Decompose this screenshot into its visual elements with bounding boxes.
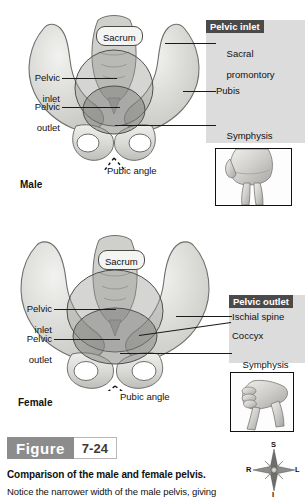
female-panel-item-coccyx: Coccyx [232, 331, 263, 342]
female-leader-symphysis-pubis [120, 353, 232, 354]
female-label-pubic-angle: Pubic angle [120, 392, 170, 403]
female-leader-pelvic-outlet [54, 339, 120, 340]
male-panel-item-sacral-promontory: Sacral promontory [216, 38, 275, 91]
compass-right: R [246, 465, 251, 474]
male-symphysis-line1: Symphysis [227, 130, 273, 141]
sacral-promontory-line1: Sacral [227, 48, 254, 59]
female-sacrum-label: Sacrum [98, 250, 145, 270]
male-leader-symphysis-pubis [115, 125, 216, 126]
figure-word: Figure [7, 437, 74, 459]
male-label-pubic-angle: Pubic angle [107, 166, 157, 177]
female-panel-item-ischial-spine: Ischial spine [232, 312, 284, 323]
figure-tag: Figure 7-24 [7, 437, 117, 459]
male-panel-item-pubis: Pubis [216, 86, 240, 97]
female-panel-header: Pelvic outlet [229, 295, 293, 308]
orientation-compass: S I R L [246, 440, 302, 498]
male-sacrum-label: Sacrum [96, 26, 143, 46]
male-pelvic-outlet-line2: outlet [37, 122, 60, 133]
female-hand-inset [230, 372, 294, 432]
figure-caption-title: Comparison of the male and female pelvis… [7, 469, 232, 480]
female-symphysis-line1: Symphysis [243, 359, 289, 370]
male-hand-inset [215, 148, 292, 206]
female-pelvic-outlet-line1: Pelvic [27, 333, 52, 344]
figure-number: 7-24 [74, 437, 117, 459]
female-pelvic-outlet-line2: outlet [29, 354, 52, 365]
male-pelvic-outlet-line1: Pelvic [35, 101, 60, 112]
male-sacrum-text: Sacrum [103, 32, 136, 43]
female-leader-ischial-spine [176, 316, 232, 317]
figure-caption-body: Notice the narrower width of the male pe… [7, 486, 247, 497]
male-leader-pelvic-inlet [62, 78, 117, 79]
male-leader-pelvic-outlet [62, 107, 120, 108]
male-leader-sacral-promontory [165, 43, 216, 44]
male-panel-header: Pelvic inlet [206, 20, 264, 33]
figure-canvas: Sacrum Pelvic inlet Pelvic outlet Pubic … [0, 0, 305, 502]
compass-superior: S [271, 440, 276, 449]
female-sacrum-text: Sacrum [105, 256, 138, 267]
female-leader-pelvic-inlet [54, 309, 116, 310]
female-label-pelvic-outlet: Pelvic outlet [0, 323, 52, 376]
male-leader-pubis [183, 91, 216, 92]
compass-left: L [295, 465, 300, 474]
sacral-promontory-line2: promontory [227, 69, 275, 80]
male-pelvic-inlet-line1: Pelvic [35, 72, 60, 83]
female-sex-label: Female [18, 398, 52, 409]
male-sex-label: Male [20, 180, 42, 191]
female-pelvic-inlet-line1: Pelvic [27, 303, 52, 314]
compass-inferior: I [272, 490, 274, 499]
male-label-pelvic-outlet: Pelvic outlet [4, 91, 60, 144]
